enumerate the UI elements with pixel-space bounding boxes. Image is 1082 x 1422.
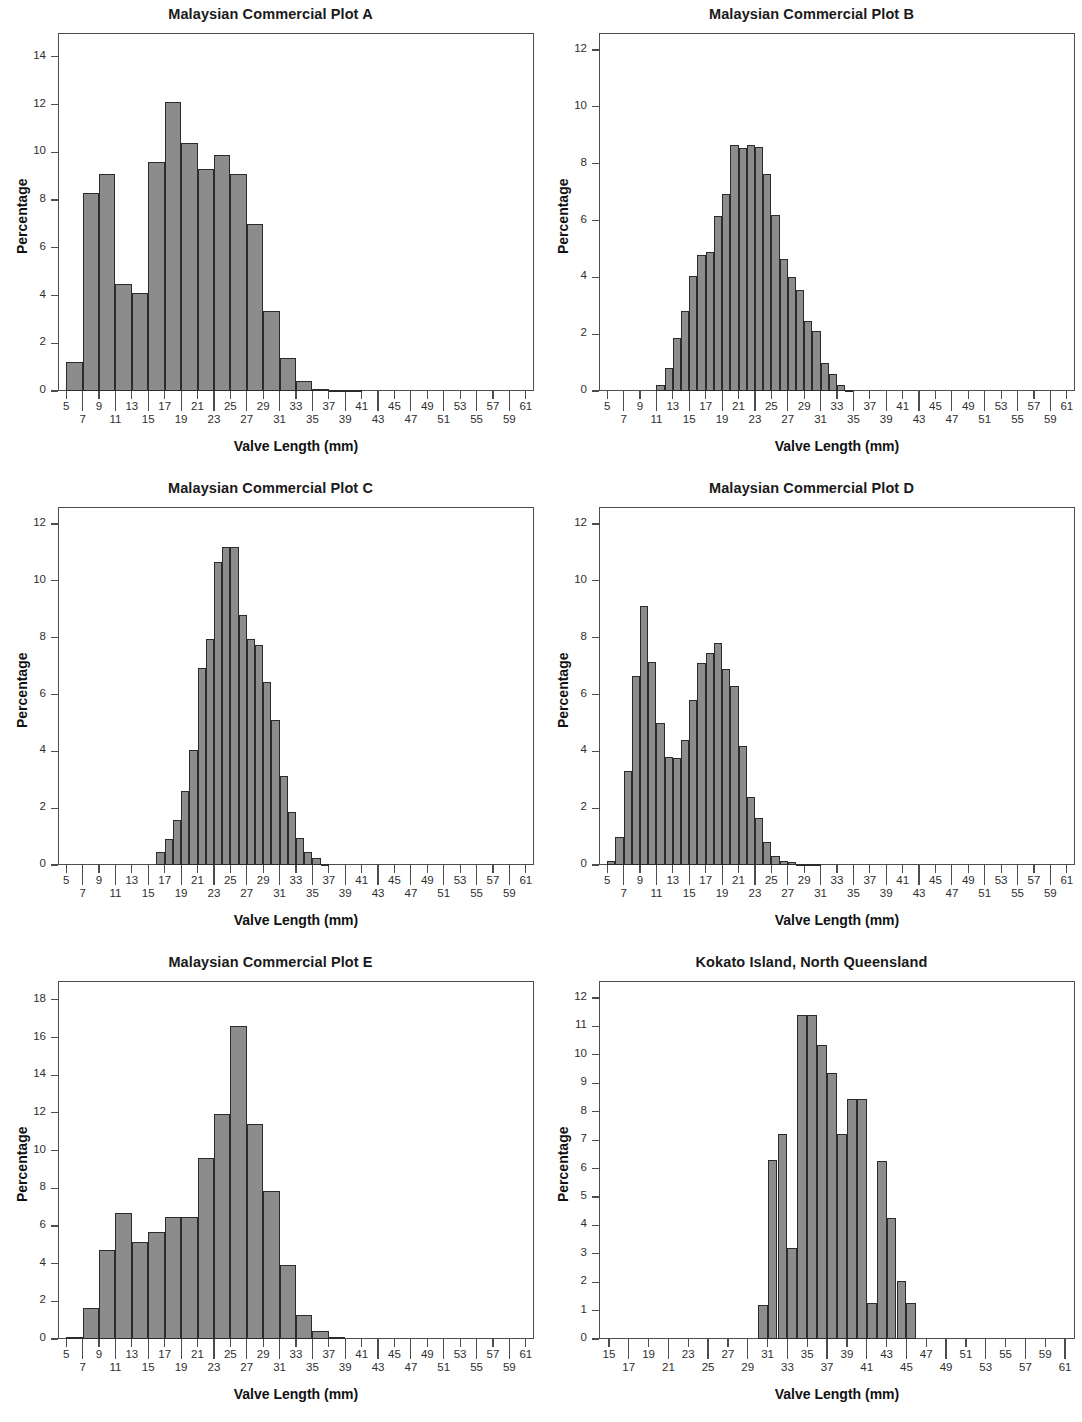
axes-frame [599,33,1075,391]
histogram-bar [763,842,771,865]
x-tick-mark [263,1339,264,1347]
histogram-bar [758,1305,768,1339]
x-tick-label: 19 [165,413,197,425]
histogram-bar [906,1303,916,1339]
y-tick-mark [51,1188,58,1189]
x-tick-label: 59 [1029,1348,1061,1360]
y-tick-mark [51,1037,58,1038]
x-tick-label: 11 [640,413,672,425]
y-tick-label: 2 [14,335,46,347]
histogram-bar [239,615,247,865]
x-tick-mark [771,391,772,399]
histogram-bar [148,1232,164,1339]
histogram-bar [263,682,271,865]
x-tick-label: 21 [652,1361,684,1373]
y-tick-mark [592,1225,599,1226]
y-tick-label: 4 [555,269,587,281]
x-tick-mark [738,865,739,873]
histogram-bar [665,757,673,865]
histogram-bar [296,381,312,391]
histogram-bar [312,389,328,391]
y-tick-mark [592,1282,599,1283]
x-tick-label: 5 [50,874,82,886]
histogram-bar [271,720,279,865]
histogram-bar [214,1114,230,1339]
x-tick-label: 53 [444,400,476,412]
x-tick-label: 47 [936,887,968,899]
y-tick-mark [51,247,58,248]
x-tick-label: 29 [788,874,820,886]
x-tick-label: 19 [706,887,738,899]
x-tick-label: 43 [903,887,935,899]
x-tick-label: 43 [362,1361,394,1373]
x-tick-mark [945,1339,946,1359]
histogram-bar [807,1015,817,1339]
y-tick-label: 0 [14,1331,46,1343]
x-tick-mark [197,1339,198,1347]
x-tick-label: 55 [990,1348,1022,1360]
x-axis-label: Valve Length (mm) [599,438,1075,454]
y-tick-label: 4 [14,1256,46,1268]
histogram-bar [827,1073,837,1339]
x-tick-label: 57 [1018,874,1050,886]
histogram-bar [771,856,779,865]
x-tick-label: 35 [296,1361,328,1373]
x-tick-label: 59 [493,1361,525,1373]
y-axis-label: Percentage [555,179,571,254]
x-tick-mark [230,865,231,873]
plot-area-b: 0246810125791113151719212325272931333537… [541,0,1082,474]
x-tick-mark [328,391,329,399]
x-tick-label: 17 [149,1348,181,1360]
x-tick-mark [968,391,969,399]
x-tick-label: 39 [870,887,902,899]
y-tick-mark [51,1075,58,1076]
plot-area-kokato: 0123456789101112151719212325272931333537… [541,948,1082,1422]
y-tick-mark [592,277,599,278]
y-tick-mark [592,220,599,221]
histogram-bar [304,852,312,865]
histogram-bar [156,852,164,865]
y-axis-label: Percentage [555,1127,571,1202]
x-tick-mark [846,1339,847,1347]
x-tick-label: 61 [510,1348,542,1360]
y-tick-mark [51,580,58,581]
x-tick-mark [328,1339,329,1347]
x-tick-mark [164,865,165,873]
x-tick-mark [66,391,67,399]
y-tick-mark [592,808,599,809]
histogram-bar [706,252,714,391]
histogram-bar [83,193,99,391]
x-tick-label: 61 [510,400,542,412]
x-tick-label: 7 [67,1361,99,1373]
x-tick-mark [771,865,772,873]
x-tick-label: 25 [214,400,246,412]
y-tick-mark [51,808,58,809]
histogram-bar [214,155,230,391]
x-tick-label: 35 [791,1348,823,1360]
x-tick-label: 51 [969,887,1001,899]
x-tick-label: 41 [851,1361,883,1373]
histogram-bar [778,1134,788,1339]
x-tick-mark [985,1339,986,1359]
x-tick-label: 51 [969,413,1001,425]
x-tick-label: 35 [837,413,869,425]
histogram-bar [796,290,804,391]
x-tick-mark [668,1339,669,1359]
histogram-bar [321,864,329,866]
x-tick-label: 23 [672,1348,704,1360]
x-tick-label: 59 [493,413,525,425]
x-tick-label: 15 [593,1348,625,1360]
histogram-bar [148,162,164,391]
x-tick-label: 25 [755,874,787,886]
x-tick-label: 25 [692,1361,724,1373]
histogram-bar [247,639,255,865]
histogram-grid: Malaysian Commercial Plot A 024681012145… [0,0,1082,1422]
histogram-bar [165,1217,181,1339]
x-tick-label: 15 [673,413,705,425]
x-tick-label: 21 [182,874,214,886]
histogram-bar [99,1250,115,1340]
x-tick-mark [492,391,493,399]
x-tick-mark [460,1339,461,1347]
x-tick-mark [1045,1339,1046,1347]
x-tick-label: 57 [477,874,509,886]
